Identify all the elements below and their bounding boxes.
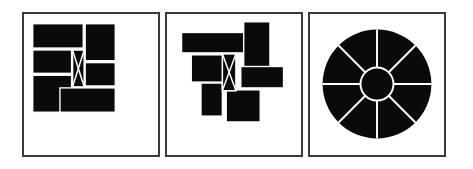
center-bowtie-piece [222, 54, 236, 91]
radial-wheel-graphic [310, 14, 444, 155]
assembled-square-graphic [24, 14, 158, 155]
piece-tall-bar-upper-right [244, 22, 270, 72]
piece-mid-left-upper [33, 50, 72, 73]
piece-bottom-wide [60, 88, 115, 112]
panel-radial-wheel [308, 12, 446, 157]
piece-block-bottom-center [226, 90, 260, 122]
piece-block-mid-left [191, 55, 226, 82]
hub-ring [360, 67, 393, 100]
piece-top-right [85, 24, 115, 61]
panel-scattered-pieces [165, 12, 303, 157]
piece-block-lower-left [201, 83, 222, 116]
scattered-pieces-graphic [167, 14, 301, 155]
piece-bar-mid-right [241, 67, 284, 88]
center-bowtie-piece [73, 50, 85, 87]
panel-assembled-square [22, 12, 160, 157]
figure-root [0, 0, 473, 169]
piece-top-left-wide [33, 24, 83, 48]
piece-wide-bar-top-left [182, 32, 244, 52]
piece-mid-right-upper [85, 63, 115, 86]
